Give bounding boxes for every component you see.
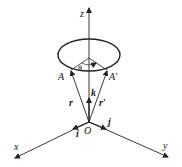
label-theta: θ — [78, 64, 82, 73]
label-a-prime: A′ — [108, 71, 118, 82]
label-z: z — [79, 8, 84, 19]
rotation-vector-diagram: z x y O A A′ θ r r′ k i j — [0, 0, 182, 167]
label-r-prime: r′ — [99, 97, 106, 108]
vector-r — [71, 71, 89, 122]
label-y: y — [162, 140, 168, 151]
label-j: j — [106, 116, 111, 127]
label-i: i — [76, 128, 79, 139]
label-a: A — [57, 71, 65, 82]
radius-to-a-prime — [89, 58, 107, 70]
label-k: k — [91, 87, 96, 98]
unit-vector-j — [89, 122, 106, 129]
label-r: r — [69, 97, 73, 108]
label-origin: O — [84, 125, 91, 136]
label-x: x — [13, 141, 19, 152]
